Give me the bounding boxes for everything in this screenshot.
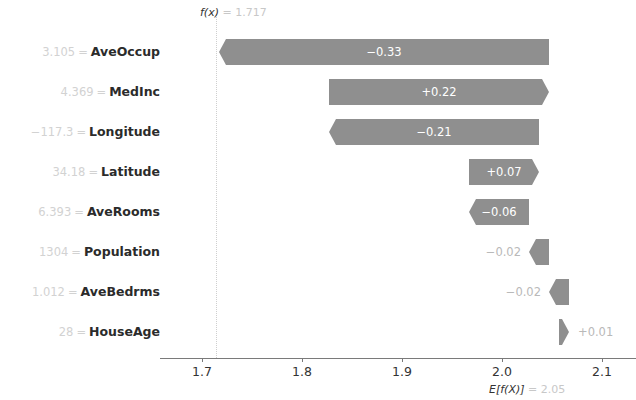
feature-value: 1.012	[32, 285, 65, 299]
fx-label: f(x)	[200, 6, 219, 19]
bar-value-label: −0.21	[329, 119, 539, 145]
feature-value: 34.18	[52, 165, 85, 179]
waterfall-bar	[549, 279, 569, 305]
equals-sign: =	[71, 205, 87, 219]
feature-name: AveRooms	[87, 204, 160, 219]
feature-row-label: 1304=Population	[39, 243, 160, 261]
bar-value-label: +0.01	[578, 319, 613, 345]
waterfall-bar	[559, 319, 569, 345]
feature-name: AveBedrms	[81, 284, 160, 299]
x-tick	[302, 358, 303, 362]
x-axis-line	[160, 358, 636, 359]
equals-sign: =	[85, 165, 101, 179]
equals-sign: =	[75, 45, 91, 59]
bar-value-label: −0.02	[499, 279, 541, 305]
efx-annotation: E[f(X)] = 2.05	[489, 383, 565, 396]
feature-name: MedInc	[109, 84, 160, 99]
bar-value-label: +0.07	[469, 159, 539, 185]
feature-name: HouseAge	[89, 324, 160, 339]
shap-waterfall-plot: f(x) = 1.717 3.105=AveOccup−0.334.369=Me…	[0, 0, 636, 400]
x-tick	[402, 358, 403, 362]
equals-sign: =	[73, 325, 89, 339]
bar-value-label: −0.06	[469, 199, 529, 225]
x-tick-label: 1.9	[392, 364, 412, 379]
efx-value: = 2.05	[528, 383, 565, 396]
x-tick	[602, 358, 603, 362]
feature-row-label: 34.18=Latitude	[52, 163, 160, 181]
bar-value-label: −0.33	[219, 39, 549, 65]
feature-row-label: 3.105=AveOccup	[42, 43, 160, 61]
x-tick-label: 2.0	[492, 364, 512, 379]
efx-label: E[f(X)]	[489, 383, 525, 396]
equals-sign: =	[65, 285, 81, 299]
feature-value: 6.393	[38, 205, 71, 219]
feature-row-label: 28=HouseAge	[59, 323, 160, 341]
feature-row-label: −117.3=Longitude	[31, 123, 160, 141]
equals-sign: =	[73, 125, 89, 139]
feature-row-label: 6.393=AveRooms	[38, 203, 160, 221]
x-tick-label: 1.8	[292, 364, 312, 379]
feature-value: −117.3	[31, 125, 74, 139]
feature-name: Longitude	[89, 124, 160, 139]
x-tick-label: 2.1	[592, 364, 612, 379]
x-tick	[502, 358, 503, 362]
feature-value: 3.105	[42, 45, 75, 59]
feature-value: 1304	[39, 245, 68, 259]
waterfall-bar	[529, 239, 549, 265]
equals-sign: =	[68, 245, 84, 259]
equals-sign: =	[94, 85, 110, 99]
x-tick-label: 1.7	[192, 364, 212, 379]
feature-row-label: 4.369=MedInc	[61, 83, 160, 101]
x-tick	[202, 358, 203, 362]
feature-name: AveOccup	[91, 44, 160, 59]
feature-name: Latitude	[101, 164, 160, 179]
feature-value: 4.369	[61, 85, 94, 99]
fx-value: = 1.717	[222, 6, 266, 19]
feature-row-label: 1.012=AveBedrms	[32, 283, 160, 301]
feature-name: Population	[84, 244, 160, 259]
feature-value: 28	[59, 325, 74, 339]
bar-value-label: +0.22	[329, 79, 549, 105]
fx-reference-line	[216, 14, 217, 358]
bar-value-label: −0.02	[479, 239, 521, 265]
fx-annotation: f(x) = 1.717	[200, 6, 267, 19]
